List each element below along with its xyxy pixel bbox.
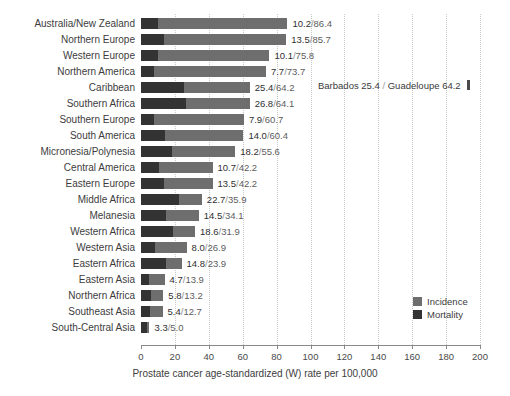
bar-value-incidence: 60.4: [270, 130, 289, 141]
bar-value-incidence: 5.0: [170, 322, 183, 333]
bar-value-mortality: 18.6: [200, 226, 219, 237]
bar-value-mortality: 25.4: [255, 82, 274, 93]
bar-mortality: [141, 82, 184, 93]
bar-value-mortality: 26.8: [255, 98, 274, 109]
x-axis-tick: [412, 345, 413, 349]
bar-mortality: [141, 306, 150, 317]
annotation-incidence-text: Guadeloupe 64.2: [388, 80, 461, 91]
bar-value-incidence: 34.1: [225, 210, 244, 221]
bar-value-mortality: 10.2: [292, 18, 311, 29]
bar-value-label: 10.2/86.4: [292, 18, 332, 29]
x-axis-tick: [243, 345, 244, 349]
chart-row: Northern America7.7/73.7: [141, 64, 480, 80]
bar-value-mortality: 18.2: [240, 146, 259, 157]
x-axis-tick-label: 80: [271, 351, 282, 362]
legend-item-incidence: Incidence: [413, 295, 468, 308]
bar-value-incidence: 23.9: [208, 258, 227, 269]
chart-row: Micronesia/Polynesia18.2/55.6: [141, 144, 480, 160]
bar-value-label: 10.7/42.2: [218, 162, 258, 173]
bar-value-mortality: 14.0: [248, 130, 267, 141]
x-axis-title: Prostate cancer age-standardized (W) rat…: [0, 368, 510, 379]
bar-value-mortality: 5.8: [168, 290, 181, 301]
bar-mortality: [141, 146, 172, 157]
bar-value-label: 18.6/31.9: [200, 226, 240, 237]
legend-item-mortality: Mortality: [413, 308, 468, 321]
category-label: Southeast Asia: [68, 306, 135, 317]
legend-label-incidence: Incidence: [427, 296, 468, 307]
chart-row: Southern Europe7.9/60.7: [141, 112, 480, 128]
bar-mortality: [141, 322, 147, 333]
bar-value-label: 7.9/60.7: [249, 114, 283, 125]
bar-value-label: 10.1/75.8: [274, 50, 314, 61]
x-axis-tick-label: 60: [237, 351, 248, 362]
bar-value-mortality: 13.5: [218, 178, 237, 189]
x-axis-tick: [344, 345, 345, 349]
category-label: Northern Africa: [68, 290, 135, 301]
bar-value-incidence: 64.1: [276, 98, 295, 109]
annotation-separator: /: [382, 80, 385, 91]
x-axis-tick: [277, 345, 278, 349]
bar-value-label: 4.7/13.9: [170, 274, 204, 285]
bar-value-label: 13.5/85.7: [291, 34, 331, 45]
category-label: Eastern Europe: [66, 178, 136, 189]
chart-row: Northern Europe13.5/85.7: [141, 32, 480, 48]
bar-value-mortality: 5.4: [168, 306, 181, 317]
chart-row: South America14.0/60.4: [141, 128, 480, 144]
chart-legend: Incidence Mortality: [413, 295, 468, 321]
bar-value-label: 18.2/55.6: [240, 146, 280, 157]
bar-mortality: [141, 226, 173, 237]
bar-value-incidence: 12.7: [183, 306, 202, 317]
bar-value-label: 5.4/12.7: [168, 306, 202, 317]
x-axis-tick-label: 20: [170, 351, 181, 362]
category-label: Caribbean: [89, 82, 135, 93]
bar-mortality: [141, 210, 166, 221]
bar-mortality: [141, 114, 154, 125]
bar-value-label: 14.5/34.1: [204, 210, 244, 221]
x-axis-tick-label: 180: [438, 351, 454, 362]
category-label: Western Asia: [76, 242, 135, 253]
gridline: [480, 14, 482, 345]
x-axis-tick: [480, 345, 481, 349]
x-axis-tick: [209, 345, 210, 349]
chart-row: Melanesia14.5/34.1: [141, 208, 480, 224]
bar-mortality: [141, 258, 166, 269]
bar-mortality: [141, 34, 164, 45]
bar-value-mortality: 14.5: [204, 210, 223, 221]
bar-mortality: [141, 98, 186, 109]
bar-value-incidence: 26.9: [207, 242, 226, 253]
chart-row: Western Africa18.6/31.9: [141, 224, 480, 240]
x-axis-tick-label: 140: [370, 351, 386, 362]
bar-value-incidence: 42.2: [239, 178, 258, 189]
bar-mortality: [141, 130, 165, 141]
x-axis-tick-label: 120: [336, 351, 352, 362]
bar-value-label: 5.8/13.2: [168, 290, 202, 301]
chart-row: Western Asia8.0/26.9: [141, 240, 480, 256]
chart-annotation: Barbados 25.4 / Guadeloupe 64.2: [318, 80, 470, 91]
legend-swatch-incidence-icon: [413, 297, 422, 306]
annotation-marker-icon: [467, 80, 470, 90]
bar-mortality: [141, 194, 179, 205]
category-label: Eastern Asia: [79, 274, 135, 285]
bar-value-incidence: 85.7: [312, 34, 331, 45]
x-axis-tick: [311, 345, 312, 349]
bar-value-label: 13.5/42.2: [218, 178, 258, 189]
x-axis-tick-label: 0: [138, 351, 143, 362]
bar-mortality: [141, 18, 158, 29]
bar-value-mortality: 14.8: [187, 258, 206, 269]
category-label: Western Europe: [63, 50, 135, 61]
category-label: Middle Africa: [78, 194, 135, 205]
bar-incidence: [141, 66, 266, 77]
bar-value-incidence: 35.9: [228, 194, 247, 205]
bar-mortality: [141, 50, 158, 61]
bar-value-incidence: 13.2: [184, 290, 203, 301]
bar-value-label: 26.8/64.1: [255, 98, 295, 109]
legend-swatch-mortality-icon: [413, 310, 422, 319]
chart-row: Eastern Europe13.5/42.2: [141, 176, 480, 192]
bar-value-mortality: 4.7: [170, 274, 183, 285]
bar-value-mortality: 7.7: [271, 66, 284, 77]
bar-incidence: [141, 114, 244, 125]
bar-value-incidence: 42.2: [239, 162, 258, 173]
bar-value-incidence: 73.7: [287, 66, 306, 77]
category-label: Western Africa: [70, 226, 135, 237]
bar-incidence: [141, 50, 269, 61]
